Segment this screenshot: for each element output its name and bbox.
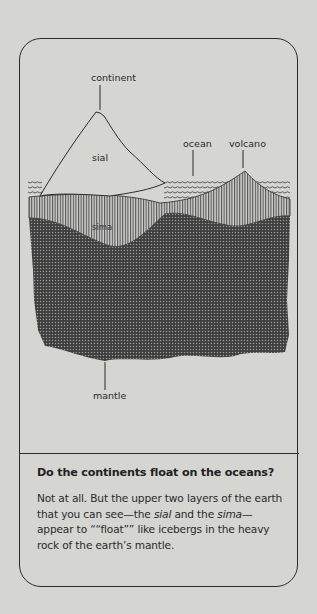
label-sima: sima	[92, 222, 112, 232]
label-mantle: mantle	[93, 390, 126, 401]
section-divider	[19, 453, 299, 454]
label-ocean: ocean	[183, 138, 212, 149]
term-sial: sial	[154, 508, 171, 520]
label-volcano: volcano	[229, 138, 266, 149]
caption-heading: Do the continents float on the oceans?	[37, 466, 274, 479]
caption-text-2: and the	[171, 508, 217, 520]
caption-body: Not at all. But the upper two layers of …	[37, 491, 292, 553]
term-sima: sima	[217, 508, 242, 520]
label-sial: sial	[92, 152, 108, 163]
mantle-layer	[29, 213, 290, 361]
label-continent: continent	[91, 72, 136, 83]
